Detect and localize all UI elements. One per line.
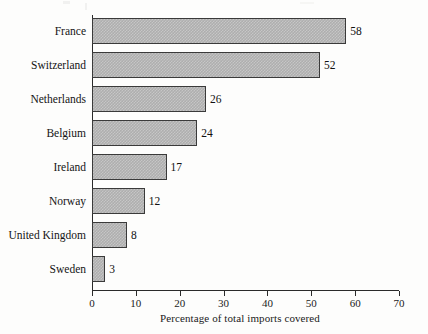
x-axis-tick-label: 30 <box>209 297 239 310</box>
bar <box>92 256 105 282</box>
x-axis-tick <box>355 291 356 296</box>
x-axis-tick-label: 0 <box>77 297 107 310</box>
bar-value-label: 58 <box>350 18 362 44</box>
bar-category-label: Ireland <box>53 154 86 180</box>
x-axis-tick-label: 40 <box>252 297 282 310</box>
scan-artifact <box>63 1 70 4</box>
bar <box>92 52 320 78</box>
bar <box>92 188 145 214</box>
bar-row: Netherlands26 <box>0 86 428 112</box>
x-axis-tick <box>311 291 312 296</box>
x-axis-tick <box>136 291 137 296</box>
bar-row: United Kingdom8 <box>0 222 428 248</box>
bar <box>92 18 346 44</box>
x-axis-tick <box>180 291 181 296</box>
x-axis-tick-label: 20 <box>165 297 195 310</box>
x-axis-tick-label: 70 <box>384 297 414 310</box>
x-axis-tick-label: 50 <box>296 297 326 310</box>
bar-value-label: 52 <box>324 52 336 78</box>
x-axis-tick <box>399 291 400 296</box>
bar-category-label: Norway <box>49 188 86 214</box>
bar <box>92 222 127 248</box>
scan-artifact <box>300 2 314 4</box>
x-axis-title-text: Percentage of total imports covered <box>160 312 320 324</box>
bar <box>92 86 206 112</box>
bar-row: Sweden3 <box>0 256 428 282</box>
bar-value-label: 12 <box>149 188 161 214</box>
bar-row: Ireland17 <box>0 154 428 180</box>
x-axis-line <box>92 290 399 291</box>
x-axis-tick <box>224 291 225 296</box>
x-axis-tick-label: 10 <box>121 297 151 310</box>
x-axis-tick-label: 60 <box>340 297 370 310</box>
bar-row: Belgium24 <box>0 120 428 146</box>
scan-artifact <box>85 3 87 10</box>
bar-value-label: 3 <box>109 256 115 282</box>
bar-category-label: Sweden <box>50 256 86 282</box>
x-axis-tick <box>92 291 93 296</box>
bar-value-label: 8 <box>131 222 137 248</box>
bar-category-label: France <box>55 18 86 44</box>
bar-category-label: Switzerland <box>31 52 86 78</box>
bar <box>92 154 167 180</box>
bar-value-label: 26 <box>210 86 222 112</box>
bar-row: Switzerland52 <box>0 52 428 78</box>
bar-chart: 010203040506070 France58Switzerland52Net… <box>0 0 428 334</box>
bar-category-label: Netherlands <box>30 86 86 112</box>
x-axis-title: Percentage of total imports covered <box>0 312 428 324</box>
bar-value-label: 17 <box>171 154 183 180</box>
bar-category-label: United Kingdom <box>8 222 86 248</box>
bar-category-label: Belgium <box>46 120 86 146</box>
bar <box>92 120 197 146</box>
bar-value-label: 24 <box>201 120 213 146</box>
x-axis-tick <box>267 291 268 296</box>
bar-row: Norway12 <box>0 188 428 214</box>
bar-row: France58 <box>0 18 428 44</box>
